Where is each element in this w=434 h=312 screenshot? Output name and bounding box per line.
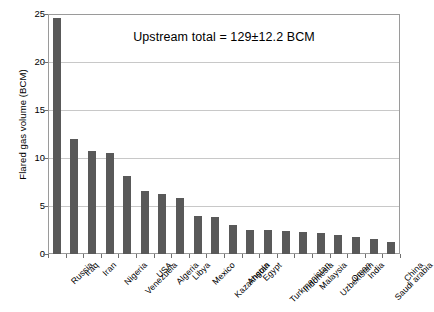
upstream-total-annotation: Upstream total = 129±12.2 BCM <box>133 30 315 44</box>
x-axis-category-label: Nigeria <box>122 260 149 287</box>
x-axis-category-label: Iran <box>100 260 118 278</box>
x-axis-category-label: Mexico <box>210 260 237 287</box>
